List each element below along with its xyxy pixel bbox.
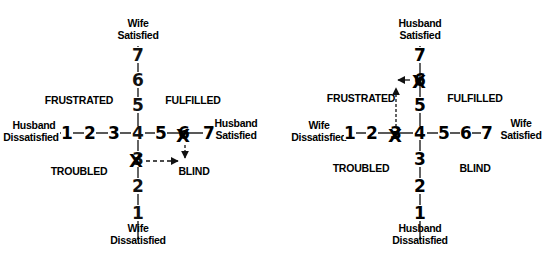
right-left-label-line1: Wife: [309, 119, 330, 131]
right-v-tick-4: 4: [414, 123, 426, 143]
right-quadrant-troubled: TROUBLED: [333, 162, 390, 174]
left-v-tick-5: 5: [132, 95, 144, 115]
right-quadrant-fulfilled: FULFILLED: [447, 92, 503, 104]
left-quadrant-troubled: TROUBLED: [51, 165, 108, 177]
left-v-tick-7: 7: [132, 45, 144, 65]
left-diagram: Wife Satisfied 7 6 5 4 3 2 1 X Wife Diss…: [3, 17, 257, 246]
left-h-tick-3: 3: [108, 123, 120, 143]
left-h-tick-1: 1: [61, 123, 73, 143]
left-bottom-label-line2: Dissatisfied: [110, 234, 165, 246]
left-right-label-line1: Husband: [215, 117, 258, 129]
left-quadrant-frustrated: FRUSTRATED: [45, 94, 114, 106]
left-v-tick-4: 4: [132, 123, 144, 143]
right-h-tick-2: 2: [366, 123, 378, 143]
left-right-label-line2: Satisfied: [215, 129, 256, 141]
right-quadrant-blind: BLIND: [459, 162, 491, 174]
left-mark-x-vertical: X: [129, 150, 143, 171]
right-h-tick-5: 5: [438, 123, 450, 143]
right-quadrant-frustrated: FRUSTRATED: [327, 92, 396, 104]
right-top-label-line1: Husband: [399, 17, 442, 29]
right-v-tick-7: 7: [414, 45, 426, 65]
right-mark-x-horizontal: X: [388, 125, 402, 146]
left-top-label-line1: Wife: [128, 17, 149, 29]
right-h-tick-1: 1: [344, 123, 356, 143]
right-v-tick-2: 2: [414, 176, 426, 196]
left-h-tick-7: 7: [203, 123, 215, 143]
right-right-label-line1: Wife: [511, 117, 532, 129]
left-v-tick-1: 1: [132, 203, 144, 223]
right-right-label-line2: Satisfied: [500, 129, 541, 141]
right-v-tick-3: 3: [414, 149, 426, 169]
left-v-tick-6: 6: [132, 70, 144, 90]
right-mark-x-vertical: X: [412, 71, 426, 92]
left-bottom-label-line1: Wife: [128, 222, 149, 234]
right-diagram: Husband Satisfied 7 6 5 4 3 2 1 X Husban…: [291, 17, 541, 246]
right-v-tick-1: 1: [414, 203, 426, 223]
right-h-tick-7: 7: [481, 123, 493, 143]
left-top-label-line2: Satisfied: [117, 29, 158, 41]
right-h-tick-6: 6: [460, 123, 472, 143]
right-top-label-line2: Satisfied: [399, 29, 440, 41]
right-v-tick-5: 5: [414, 95, 426, 115]
left-quadrant-blind: BLIND: [178, 165, 210, 177]
left-v-tick-2: 2: [132, 176, 144, 196]
right-bottom-label-line1: Husband: [399, 222, 442, 234]
left-mark-x-horizontal: X: [176, 125, 190, 146]
left-left-label-line1: Husband: [13, 119, 56, 131]
right-bottom-label-line2: Dissatisfied: [392, 234, 447, 246]
left-quadrant-fulfilled: FULFILLED: [165, 94, 221, 106]
right-left-label-line2: Dissatisfied: [291, 131, 346, 143]
left-left-label-line2: Dissatisfied: [3, 131, 58, 143]
left-h-tick-5: 5: [155, 123, 167, 143]
left-h-tick-2: 2: [84, 123, 96, 143]
